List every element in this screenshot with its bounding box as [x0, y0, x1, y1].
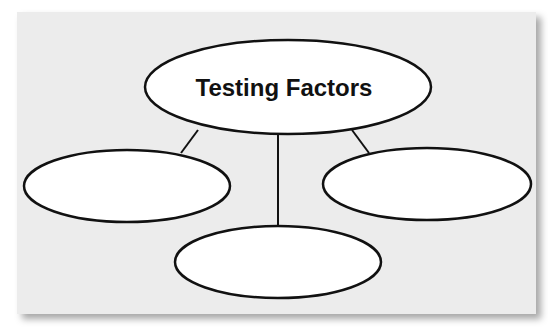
- connector-right: [352, 130, 369, 153]
- child-node-left: [24, 150, 230, 222]
- concept-map: Testing Factors: [0, 0, 548, 335]
- child-node-right: [323, 148, 531, 220]
- central-node: Testing Factors: [145, 40, 431, 134]
- connector-left: [181, 130, 198, 153]
- child-node-bottom: [175, 226, 381, 298]
- central-node-label: Testing Factors: [196, 74, 373, 101]
